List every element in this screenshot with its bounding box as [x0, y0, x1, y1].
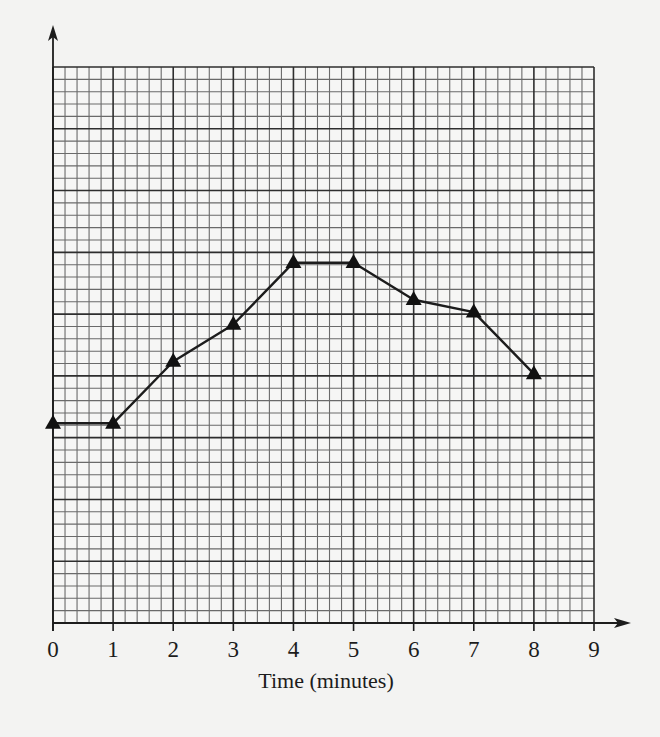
line-chart: 0 1 2 3 4 5 6 7 8 9 Time (minutes) [0, 0, 660, 737]
x-tick-label: 4 [288, 638, 300, 661]
x-tick-label: 5 [348, 638, 360, 661]
x-tick-label: 6 [408, 638, 420, 661]
x-tick-label: 0 [47, 638, 59, 661]
x-tick-label: 3 [228, 638, 240, 661]
x-tick-label: 2 [167, 638, 179, 661]
x-tick-label: 9 [588, 638, 600, 661]
grid-minor-lines [53, 67, 594, 623]
x-axis-title: Time (minutes) [258, 670, 393, 692]
x-axis-ticks [53, 623, 594, 631]
chart-plot-area [0, 0, 660, 737]
x-tick-label: 8 [528, 638, 540, 661]
x-tick-label: 7 [468, 638, 480, 661]
x-tick-label: 1 [107, 638, 119, 661]
grid-background [53, 67, 594, 623]
